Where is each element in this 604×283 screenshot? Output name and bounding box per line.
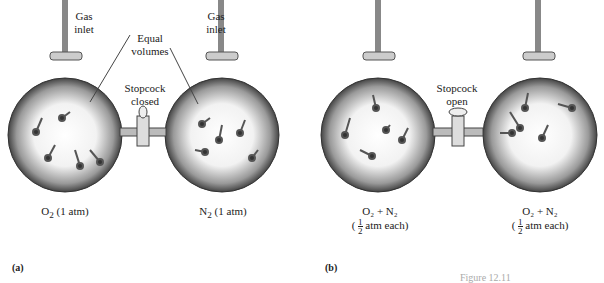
o2-bulb-label: O2 (1 atm) <box>30 205 100 222</box>
mixture-formula: O₂ + N₂ <box>340 205 420 218</box>
panel-b-tag: (b) <box>325 262 337 273</box>
stopcock-closed-label: Stopcock closed <box>120 82 170 108</box>
pressure: (1 atm) <box>54 205 89 217</box>
fraction: 12 <box>358 218 363 235</box>
pressure: atm each) <box>365 219 408 231</box>
fraction: 12 <box>518 218 523 235</box>
panel-a-tag: (a) <box>12 262 24 273</box>
gas-inlet-label-a-left: Gas inlet <box>62 10 106 36</box>
pressure: atm each) <box>525 219 568 231</box>
n2-bulb-label: N2 (1 atm) <box>188 205 258 222</box>
figure-caption: Figure 12.11 <box>460 272 511 283</box>
mixed-bulb-label-right: O₂ + N₂ ( 12 atm each) <box>500 205 580 235</box>
pressure: (1 atm) <box>212 205 247 217</box>
equal-volumes-label: Equal volumes <box>124 32 176 58</box>
mixed-bulb-label-left: O₂ + N₂ ( 12 atm each) <box>340 205 420 235</box>
mixture-formula: O₂ + N₂ <box>500 205 580 218</box>
stopcock-open-label: Stopcock open <box>432 82 482 108</box>
gas-inlet-label-a-right: Gas inlet <box>194 10 238 36</box>
